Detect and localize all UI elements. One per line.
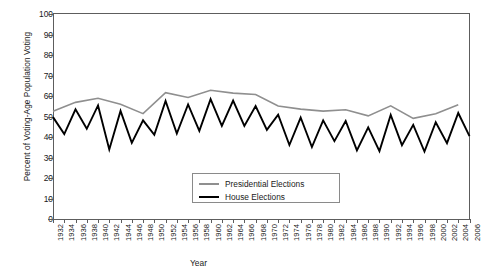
legend-item-presidential: Presidential Elections <box>199 178 304 190</box>
legend-label-house: House Elections <box>225 192 285 202</box>
legend-label-presidential: Presidential Elections <box>225 179 304 189</box>
series-lines <box>0 0 487 275</box>
legend-swatch-house <box>199 196 219 198</box>
chart-figure: 1009080706050403020100 Percent of Voting… <box>0 0 487 275</box>
legend: Presidential Elections House Elections <box>192 173 340 203</box>
series-line-house-elections <box>53 99 470 151</box>
legend-swatch-presidential <box>199 183 219 185</box>
x-axis-title: Year <box>190 258 207 268</box>
legend-item-house: House Elections <box>199 191 285 203</box>
